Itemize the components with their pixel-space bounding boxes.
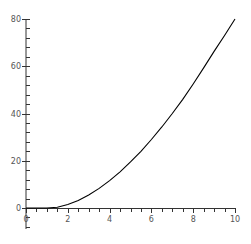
y-tick-label: 80 <box>11 15 21 24</box>
line-chart: 020406080 0246810 <box>0 0 251 244</box>
x-axis <box>23 208 236 213</box>
y-axis-labels: 020406080 <box>11 15 21 213</box>
x-tick-label: 2 <box>65 215 70 224</box>
x-tick-label: 8 <box>191 215 196 224</box>
y-tick-label: 0 <box>16 204 21 213</box>
data-curve <box>26 19 235 208</box>
y-tick-label: 60 <box>11 62 21 71</box>
x-tick-label: 6 <box>149 215 154 224</box>
x-tick-label: 0 <box>23 215 28 224</box>
x-axis-labels: 0246810 <box>23 215 240 224</box>
y-tick-label: 40 <box>11 110 21 119</box>
y-tick-label: 20 <box>11 157 21 166</box>
x-tick-label: 4 <box>107 215 112 224</box>
y-axis <box>22 19 30 229</box>
x-tick-label: 10 <box>230 215 240 224</box>
plot-area: 020406080 0246810 <box>0 0 251 244</box>
